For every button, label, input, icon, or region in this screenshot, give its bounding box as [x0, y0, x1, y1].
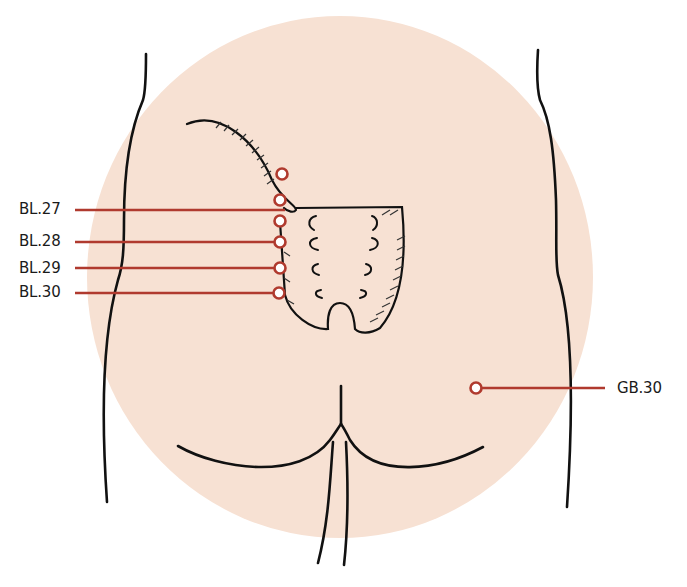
label-bl28: BL.28: [19, 234, 61, 249]
point-marker-bl28: [275, 237, 286, 248]
label-bl30: BL.30: [19, 285, 61, 300]
point-marker-unlabeled-sacral: [275, 216, 286, 227]
point-marker-bl29: [275, 263, 286, 274]
label-bl29: BL.29: [19, 261, 61, 276]
point-marker-bl27: [275, 195, 286, 206]
highlight-region: [87, 16, 593, 538]
label-bl27: BL.27: [19, 202, 61, 217]
point-marker-gb30: [471, 383, 482, 394]
label-gb30: GB.30: [617, 381, 662, 396]
acupuncture-diagram: [0, 0, 687, 587]
point-marker-unlabeled-upper: [277, 169, 288, 180]
point-marker-bl30: [274, 288, 285, 299]
